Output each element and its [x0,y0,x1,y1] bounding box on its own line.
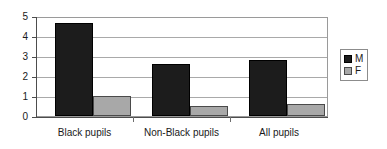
legend-label-f: F [355,66,361,76]
y-tick-label-5: 5 [0,12,28,22]
bar-m-black-pupils [55,23,93,116]
y-tick-label-4: 4 [0,32,28,42]
y-tick-label-3: 3 [0,52,28,62]
bar-m-non-black-pupils [152,64,190,116]
y-tick-5 [32,17,36,18]
legend-swatch-icon-m [344,55,352,63]
bar-f-black-pupils [93,96,131,116]
bar-chart: 5 4 3 2 1 0 Black pupils Non-Black pupil… [0,0,387,149]
y-tick-1 [32,97,36,98]
y-tick-label-1: 1 [0,92,28,102]
bar-m-all-pupils [249,60,287,116]
bar-f-all-pupils [287,104,325,116]
legend-entry-m: M [344,53,363,65]
bar-f-non-black-pupils [190,106,228,116]
x-axis-separator-2 [230,117,231,122]
x-axis-line [36,117,328,118]
y-tick-label-0: 0 [0,112,28,122]
y-axis-line [36,17,37,117]
y-tick-label-2: 2 [0,72,28,82]
x-tick-label-black-pupils: Black pupils [36,127,133,138]
y-tick-2 [32,77,36,78]
x-tick-label-non-black-pupils: Non-Black pupils [133,127,230,138]
plot-area [36,17,328,117]
x-tick-label-all-pupils: All pupils [230,127,328,138]
legend-entry-f: F [344,65,363,77]
y-tick-4 [32,37,36,38]
legend-label-m: M [355,54,363,64]
legend-swatch-icon-f [344,67,352,75]
legend: M F [340,49,368,81]
x-axis-separator-1 [133,117,134,122]
y-tick-3 [32,57,36,58]
